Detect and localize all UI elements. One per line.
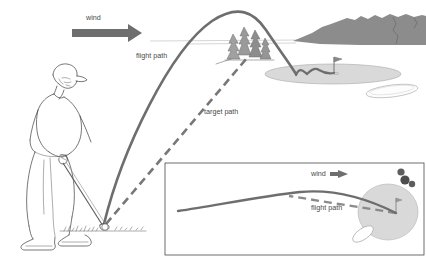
target-path-label-main: target path: [204, 107, 238, 116]
scene-illustration: flight path target path wind: [0, 0, 426, 258]
golfer-at-address: [21, 64, 109, 250]
inset-panel: wind flight path: [165, 163, 424, 255]
ground-grass: [60, 224, 146, 231]
wind-label-main: wind: [85, 13, 101, 22]
flight-path-label-main: flight path: [136, 51, 167, 60]
horizon-line: [150, 40, 300, 44]
mountain-ridge: [293, 14, 426, 45]
bunker: [365, 82, 418, 100]
flight-path-label-inset: flight path: [311, 203, 342, 212]
wind-label-inset: wind: [310, 169, 326, 178]
golf-flight-path-figure: flight path target path wind: [0, 0, 426, 258]
tree-cluster: [216, 27, 274, 64]
wind-arrow: [72, 24, 142, 42]
